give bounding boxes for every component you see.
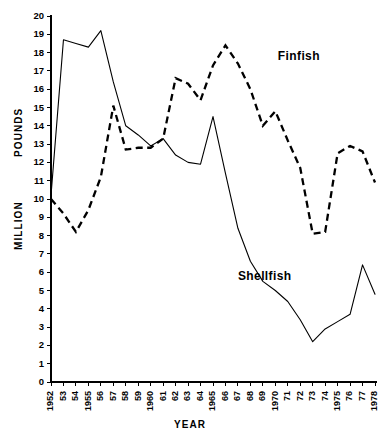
y-tick-label: 4 [39,303,45,314]
series-line-shellfish [51,31,375,342]
x-tick-label: 1955 [83,391,93,411]
x-tick-label: 1965 [207,391,217,411]
x-tick-label: 67 [232,391,242,401]
y-tick-label: 10 [33,193,44,204]
x-tick-label: 69 [257,391,267,401]
x-tick-label: 57 [108,391,118,401]
x-tick-label: 74 [320,391,330,401]
y-tick-label: 13 [33,138,44,149]
x-tick-label: 77 [357,391,367,401]
x-tick-label: 1952 [45,391,55,411]
y-tick-label: 2 [39,339,44,350]
x-tick-label: 58 [120,391,130,401]
y-tick-label: 7 [39,248,44,259]
y-tick-label: 0 [39,376,44,387]
x-tick-label: 59 [133,391,143,401]
x-tick-label: 56 [95,391,105,401]
x-axis-title: YEAR [174,419,206,430]
y-tick-label: 17 [33,65,44,76]
y-axis: 01234567891011121314151617181920 [33,10,51,387]
x-tick-label: 62 [170,391,180,401]
y-tick-label: 12 [33,156,44,167]
x-tick-label: 68 [245,391,255,401]
y-axis-title-pounds: POUNDS [13,108,24,157]
x-tick-label: 63 [182,391,192,401]
x-tick-label: 73 [307,391,317,401]
series-annotations: ShellfishFinfish [238,49,320,283]
y-tick-label: 6 [39,266,44,277]
x-tick-label: 64 [195,391,205,401]
fisheries-landings-chart: 01234567891011121314151617181920 1952535… [0,0,391,436]
x-tick-label: 76 [344,391,354,401]
series-lines [51,31,375,342]
y-tick-label: 11 [34,175,45,186]
x-tick-label: 71 [282,391,292,401]
y-tick-label: 15 [33,102,44,113]
x-tick-label: 1970 [270,391,280,411]
x-tick-label: 53 [58,391,68,401]
series-label-shellfish: Shellfish [238,269,292,283]
y-tick-label: 9 [39,211,44,222]
chart-canvas: 01234567891011121314151617181920 1952535… [0,0,391,436]
y-tick-label: 18 [33,47,44,58]
y-tick-label: 16 [33,83,44,94]
x-tick-label: 1975 [332,391,342,411]
y-tick-label: 1 [39,358,45,369]
x-tick-label: 1960 [145,391,155,411]
y-tick-label: 5 [39,285,45,296]
series-label-finfish: Finfish [278,49,320,63]
y-tick-label: 14 [33,120,44,131]
x-tick-label: 66 [220,391,230,401]
y-tick-label: 8 [39,230,44,241]
y-axis-title-million: MILLION [13,201,24,250]
x-tick-label: 1978 [369,391,379,411]
y-tick-label: 20 [33,10,44,21]
x-axis: 1952535419555657585919606162636419656667… [45,382,379,411]
y-tick-label: 3 [39,321,44,332]
series-line-finfish [51,45,375,233]
y-tick-label: 19 [33,28,44,39]
x-tick-label: 72 [295,391,305,401]
x-tick-label: 54 [70,391,80,401]
x-tick-label: 61 [158,391,168,401]
